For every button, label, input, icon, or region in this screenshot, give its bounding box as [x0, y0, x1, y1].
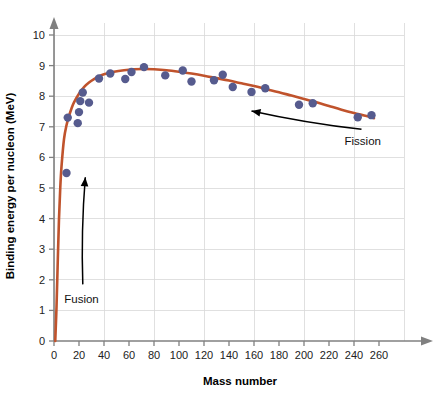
- y-tick-label: 0: [39, 335, 45, 347]
- annotation-arrow-shaft: [82, 177, 85, 284]
- data-point: [64, 113, 72, 121]
- y-tick-label: 9: [39, 60, 45, 72]
- data-point: [187, 77, 195, 85]
- data-point: [85, 98, 93, 106]
- data-point: [95, 74, 103, 82]
- y-tick-label: 7: [39, 121, 45, 133]
- data-point: [247, 88, 255, 96]
- annotation-label-fusion: Fusion: [64, 293, 99, 305]
- data-point: [79, 88, 87, 96]
- data-point: [309, 99, 317, 107]
- binding-energy-curve: [55, 69, 374, 341]
- y-axis: 012345678910: [33, 17, 59, 347]
- data-point: [140, 63, 148, 71]
- x-tick-label: 0: [51, 349, 57, 361]
- data-point: [161, 71, 169, 79]
- x-tick-label: 40: [98, 349, 110, 361]
- y-tick-label: 6: [39, 151, 45, 163]
- x-tick-label: 220: [320, 349, 338, 361]
- y-tick-label: 3: [39, 243, 45, 255]
- data-points: [62, 63, 375, 177]
- x-axis-tick-labels: 020406080100120140160180200220240260: [51, 349, 388, 361]
- data-point: [127, 68, 135, 76]
- x-tick-label: 240: [345, 349, 363, 361]
- data-point: [62, 169, 70, 177]
- x-tick-label: 260: [370, 349, 388, 361]
- x-axis-arrowhead: [421, 337, 433, 346]
- y-axis-arrowhead: [50, 17, 59, 29]
- data-point: [210, 76, 218, 84]
- y-tick-label: 2: [39, 274, 45, 286]
- x-tick-label: 140: [220, 349, 238, 361]
- x-tick-label: 20: [73, 349, 85, 361]
- data-point: [106, 69, 114, 77]
- y-tick-label: 5: [39, 182, 45, 194]
- x-tick-label: 200: [295, 349, 313, 361]
- data-point: [295, 101, 303, 109]
- data-point: [76, 97, 84, 105]
- data-point: [354, 113, 362, 121]
- data-point: [219, 71, 227, 79]
- y-axis-title: Binding energy per nucleon (MeV): [4, 93, 16, 280]
- data-point: [75, 108, 83, 116]
- data-point: [367, 111, 375, 119]
- annotation-arrowhead: [252, 109, 262, 116]
- x-tick-label: 120: [195, 349, 213, 361]
- chart-canvas: 012345678910 020406080100120140160180200…: [0, 0, 437, 397]
- data-point: [229, 83, 237, 91]
- gridlines-horizontal: [54, 35, 404, 310]
- data-point: [179, 66, 187, 74]
- y-tick-label: 4: [39, 213, 45, 225]
- data-point: [74, 119, 82, 127]
- data-point: [121, 75, 129, 83]
- annotation-label-fission: Fission: [345, 135, 381, 147]
- x-tick-label: 80: [148, 349, 160, 361]
- annotations: FusionFission: [64, 109, 381, 305]
- x-axis-title: Mass number: [203, 375, 278, 387]
- y-tick-label: 10: [33, 29, 45, 41]
- x-tick-label: 180: [270, 349, 288, 361]
- y-tick-label: 1: [39, 304, 45, 316]
- y-axis-tick-labels: 012345678910: [33, 29, 45, 347]
- data-point: [261, 84, 269, 92]
- x-tick-label: 60: [123, 349, 135, 361]
- binding-energy-chart: 012345678910 020406080100120140160180200…: [0, 0, 437, 397]
- y-tick-label: 8: [39, 90, 45, 102]
- x-tick-label: 160: [245, 349, 263, 361]
- gridlines-vertical: [54, 23, 404, 341]
- x-tick-label: 100: [170, 349, 188, 361]
- x-axis: 020406080100120140160180200220240260: [51, 337, 433, 362]
